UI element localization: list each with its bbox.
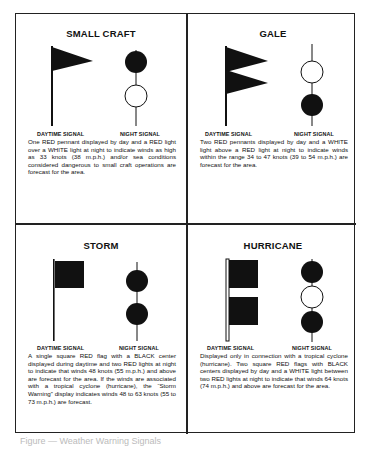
daytime-signal-label: DAYTIME SIGNAL	[37, 345, 84, 351]
panel-small-craft: SMALL CRAFT DAYTIME SIGNAL NIGHT SIGNAL …	[16, 14, 186, 223]
night-signal-label: NIGHT SIGNAL	[292, 345, 332, 351]
signal-description: Displayed only in connection with a trop…	[200, 352, 348, 390]
night-signal-label: NIGHT SIGNAL	[119, 345, 159, 351]
daytime-signal-label: DAYTIME SIGNAL	[37, 131, 84, 137]
panel-gale: GALE DAYTIME SIGNAL NIGHT SIGNAL Two RED…	[188, 14, 358, 223]
night-lights-icon	[16, 226, 186, 356]
night-signal-label: NIGHT SIGNAL	[120, 131, 160, 137]
night-lights-icon	[188, 14, 358, 144]
night-lights-icon	[16, 14, 186, 144]
night-lights-icon	[188, 226, 358, 356]
horizontal-divider	[15, 223, 356, 225]
signal-description: A single square RED flag with a BLACK ce…	[28, 352, 176, 405]
daytime-signal-label: DAYTIME SIGNAL	[207, 345, 254, 351]
signal-description: Two RED pennants displayed by day and a …	[200, 138, 348, 168]
night-signal-label: NIGHT SIGNAL	[294, 131, 334, 137]
daytime-signal-label: DAYTIME SIGNAL	[205, 131, 252, 137]
panel-storm: STORM DAYTIME SIGNAL NIGHT SIGNAL A sing…	[16, 226, 186, 435]
figure-caption: Figure — Weather Warning Signals	[20, 436, 360, 450]
panel-hurricane: HURRICANE DAYTIME SIGNAL NIGHT SIGNAL Di…	[188, 226, 358, 435]
signal-description: One RED pennant displayed by day and a R…	[28, 138, 176, 176]
